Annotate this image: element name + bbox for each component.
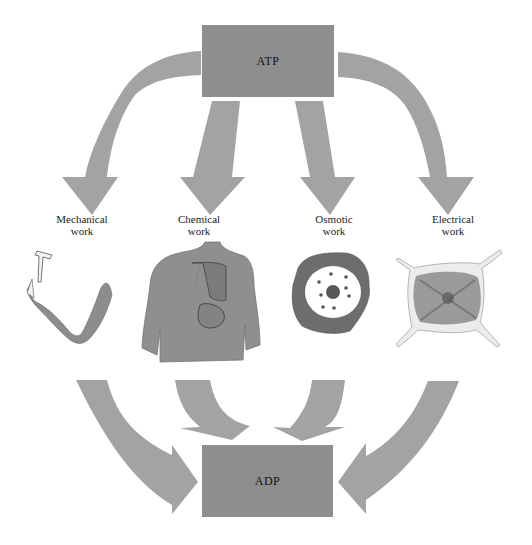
cell-with-pores-icon [292,253,369,334]
nerve-cell-icon [396,250,502,347]
illustrations-layer [0,0,532,545]
human-torso-icon [142,242,260,362]
arm-hammer-icon [27,251,112,343]
atp-work-cycle-diagram: ATP ADP Mechanical work Chemical work Os… [0,0,532,545]
